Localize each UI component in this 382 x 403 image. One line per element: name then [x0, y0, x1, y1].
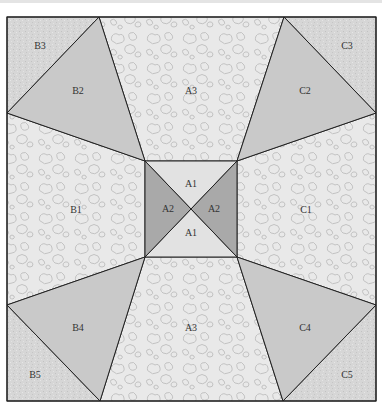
quilt-block-diagram: B3 B2 A3 C2 C3 B1 C1 A1 A2 A2 A1 B4 A3 C… — [0, 0, 382, 403]
label-b3: B3 — [34, 40, 46, 51]
label-b4: B4 — [72, 322, 84, 333]
label-a3-bottom: A3 — [185, 322, 197, 333]
label-b5: B5 — [29, 369, 41, 380]
label-c3: C3 — [341, 40, 353, 51]
label-a3-top: A3 — [185, 85, 197, 96]
label-b2: B2 — [72, 85, 84, 96]
label-c1: C1 — [300, 204, 312, 215]
label-a2-right: A2 — [208, 203, 220, 214]
label-b1: B1 — [70, 204, 82, 215]
label-a2-left: A2 — [162, 203, 174, 214]
label-c2: C2 — [299, 85, 311, 96]
label-c4: C4 — [299, 322, 311, 333]
label-a1-top: A1 — [185, 178, 197, 189]
label-c5: C5 — [341, 369, 353, 380]
label-a1-bottom: A1 — [185, 227, 197, 238]
